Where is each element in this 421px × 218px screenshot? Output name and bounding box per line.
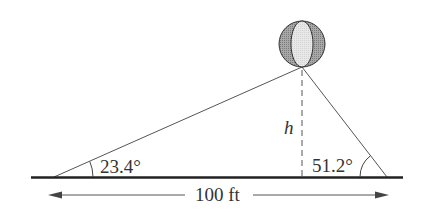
height-label: h (284, 117, 294, 138)
balloon-icon (279, 21, 325, 67)
left-sight-line (54, 67, 302, 177)
left-arrowhead-icon (48, 192, 62, 199)
diagram-canvas: 23.4° 51.2° h 100 ft (0, 0, 421, 218)
distance-label: 100 ft (195, 184, 241, 205)
left-angle-label: 23.4° (100, 156, 141, 177)
right-arrowhead-icon (375, 192, 389, 199)
right-angle-label: 51.2° (312, 155, 353, 176)
right-angle-arc (360, 156, 371, 177)
left-angle-arc (90, 162, 93, 178)
